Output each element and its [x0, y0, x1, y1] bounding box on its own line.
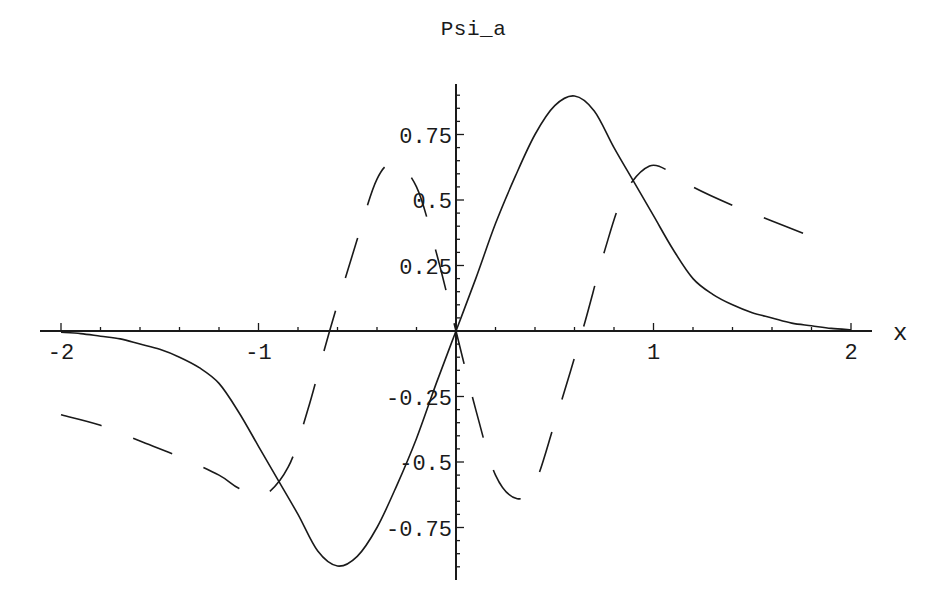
plot-area: -2-1120.750.50.25-0.25-0.5-0.75 x [0, 0, 947, 606]
x-tick-label: 2 [844, 341, 857, 366]
y-tick-label: 0.25 [399, 256, 452, 281]
y-tick-label: -0.75 [386, 518, 452, 543]
tick-labels: -2-1120.750.50.25-0.25-0.5-0.75 [48, 125, 858, 543]
x-tick-label: -1 [245, 341, 271, 366]
x-axis-label: x [893, 320, 907, 347]
x-tick-label: 1 [647, 341, 660, 366]
y-tick-label: -0.25 [386, 387, 452, 412]
y-tick-label: 0.75 [399, 125, 452, 150]
y-tick-label: -0.5 [399, 452, 452, 477]
x-tick-label: -2 [48, 341, 74, 366]
y-tick-label: 0.5 [412, 190, 452, 215]
